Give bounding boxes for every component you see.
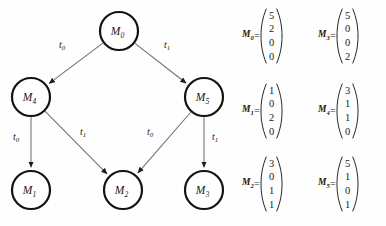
marking-vector-name-m4: M4 <box>318 105 330 116</box>
edge-label-m4-m1: t0 <box>13 131 20 143</box>
marking-vector-m5: M5=5101 <box>318 156 359 212</box>
edge-label-m5-m2: t0 <box>147 126 154 138</box>
vector-value: 5 <box>267 9 276 23</box>
vector-values-m0: 5200 <box>267 9 276 63</box>
vector-value: 1 <box>267 184 276 198</box>
graph-node-m0[interactable]: M0 <box>100 12 138 50</box>
left-paren-icon <box>336 156 343 212</box>
graph-node-m2[interactable]: M2 <box>104 171 142 209</box>
edge-label-subscript: 0 <box>150 131 154 138</box>
graph-edge-m0-m4 <box>49 43 103 83</box>
vector-value: 5 <box>343 157 352 171</box>
vector-value: 0 <box>267 97 276 111</box>
vector-value: 1 <box>343 111 352 125</box>
graph-node-m5[interactable]: M5 <box>185 78 223 116</box>
marking-vector-name-m3: M3 <box>318 30 330 41</box>
vector-brackets-m1: 1020 <box>260 83 283 139</box>
node-label-subscript: 4 <box>32 97 36 106</box>
vector-brackets-m3: 5002 <box>336 8 359 64</box>
edge-label-subscript: 0 <box>62 44 66 51</box>
vector-value: 5 <box>343 9 352 23</box>
vector-values-m4: 3110 <box>343 84 352 138</box>
vector-value: 0 <box>267 50 276 64</box>
marking-vector-m0: M0=5200 <box>242 8 283 64</box>
graph-edges <box>31 43 204 174</box>
vector-brackets-m0: 5200 <box>260 8 283 64</box>
graph-canvas: M0M4M5M1M2M3 t0t1t0t1t0t1 <box>0 0 238 226</box>
graph-node-m1[interactable]: M1 <box>12 171 50 209</box>
edge-label-subscript: 1 <box>167 44 170 51</box>
vector-value: 0 <box>267 125 276 139</box>
vector-value: 3 <box>267 157 276 171</box>
vector-value: 0 <box>343 184 352 198</box>
edge-label-m4-m2: t1 <box>80 126 86 138</box>
vector-value: 1 <box>343 170 352 184</box>
right-paren-icon <box>352 156 359 212</box>
edge-label-subscript: 0 <box>16 136 20 143</box>
marking-vector-m2: M2=3011 <box>242 156 283 212</box>
node-label-subscript: 1 <box>32 190 36 199</box>
vector-values-m1: 1020 <box>267 84 276 138</box>
graph-node-m4[interactable]: M4 <box>12 78 50 116</box>
graph-edge-m4-m2 <box>45 111 107 173</box>
right-paren-icon <box>276 156 283 212</box>
edge-label-m5-m3: t1 <box>212 131 218 143</box>
right-paren-icon <box>352 8 359 64</box>
left-paren-icon <box>260 83 267 139</box>
marking-vector-name-m1: M1 <box>242 105 254 116</box>
marking-vector-m3: M3=5002 <box>318 8 359 64</box>
marking-vector-list: M0=5200M3=5002M1=1020M4=3110M2=3011M5=51… <box>238 0 386 226</box>
marking-vector-name-m2: M2 <box>242 178 254 189</box>
vector-values-m3: 5002 <box>343 9 352 63</box>
right-paren-icon <box>276 83 283 139</box>
node-label-subscript: 2 <box>124 190 128 199</box>
figure-root: M0M4M5M1M2M3 t0t1t0t1t0t1 M0=5200M3=5002… <box>0 0 386 226</box>
edge-label-m0-m5: t1 <box>164 39 170 51</box>
vector-brackets-m2: 3011 <box>260 156 283 212</box>
vector-brackets-m5: 5101 <box>336 156 359 212</box>
vector-value: 0 <box>343 36 352 50</box>
marking-vector-name-m5: M5 <box>318 178 330 189</box>
left-paren-icon <box>336 83 343 139</box>
vector-value: 1 <box>267 84 276 98</box>
vector-values-m2: 3011 <box>267 157 276 211</box>
vector-values-m5: 5101 <box>343 157 352 211</box>
vector-brackets-m4: 3110 <box>336 83 359 139</box>
left-paren-icon <box>260 156 267 212</box>
graph-edge-m0-m5 <box>135 43 186 83</box>
left-paren-icon <box>336 8 343 64</box>
vector-value: 0 <box>343 22 352 36</box>
graph-edge-m5-m2 <box>138 112 191 173</box>
right-paren-icon <box>352 83 359 139</box>
marking-vector-name-m0: M0 <box>242 30 254 41</box>
vector-value: 2 <box>267 111 276 125</box>
left-paren-icon <box>260 8 267 64</box>
edge-label-m0-m4: t0 <box>59 39 66 51</box>
graph-node-m3[interactable]: M3 <box>185 171 223 209</box>
marking-vector-m4: M4=3110 <box>318 83 359 139</box>
vector-value: 0 <box>267 170 276 184</box>
vector-value: 0 <box>267 36 276 50</box>
right-paren-icon <box>276 8 283 64</box>
marking-vectors-panel: M0=5200M3=5002M1=1020M4=3110M2=3011M5=51… <box>238 0 386 226</box>
vector-value: 2 <box>267 22 276 36</box>
vector-value: 1 <box>343 97 352 111</box>
node-label-subscript: 5 <box>205 97 209 106</box>
edge-label-subscript: 1 <box>83 131 86 138</box>
vector-value: 2 <box>343 50 352 64</box>
marking-vector-m1: M1=1020 <box>242 83 283 139</box>
node-label-subscript: 3 <box>204 190 209 199</box>
vector-value: 0 <box>343 125 352 139</box>
vector-value: 1 <box>343 198 352 212</box>
vector-value: 3 <box>343 84 352 98</box>
graph-nodes: M0M4M5M1M2M3 <box>12 12 223 209</box>
reachability-graph: M0M4M5M1M2M3 t0t1t0t1t0t1 <box>0 0 238 226</box>
node-label-subscript: 0 <box>120 31 124 40</box>
edge-label-subscript: 1 <box>215 136 218 143</box>
vector-value: 1 <box>267 198 276 212</box>
